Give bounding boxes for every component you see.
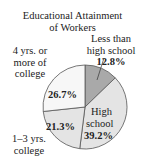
label-4-yrs-college-line-3: college	[6, 68, 54, 80]
label-less-than-high-school-pct: 12.8%	[80, 56, 142, 68]
label-1-3-yrs-college: 1–3 yrs. college	[4, 133, 54, 156]
label-less-than-high-school-line-2: high school	[80, 45, 142, 57]
slice-label-1-3-yrs-pct: 21.3%	[46, 121, 75, 132]
label-1-3-yrs-college-line-1: 1–3 yrs.	[4, 133, 54, 145]
slice-label-high-school-line-1: High	[91, 106, 113, 117]
label-1-3-yrs-college-line-2: college	[4, 145, 54, 157]
slice-label-high-school-line-2: school	[86, 118, 113, 129]
label-4-yrs-college: 4 yrs. or more of college	[6, 45, 54, 80]
slice-label-high-school-pct: 39.2%	[84, 130, 113, 141]
label-less-than-high-school: Less than high school 12.8%	[80, 33, 142, 68]
slice-label-4-yrs-college-pct: 26.7%	[48, 89, 77, 100]
label-4-yrs-college-line-1: 4 yrs. or	[6, 45, 54, 57]
label-4-yrs-college-line-2: more of	[6, 57, 54, 69]
label-less-than-high-school-line-1: Less than	[80, 33, 142, 45]
